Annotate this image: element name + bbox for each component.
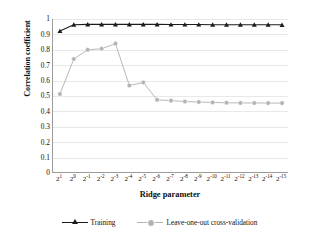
data-point-marker — [238, 101, 243, 106]
data-point-marker — [224, 100, 229, 105]
data-point-marker — [196, 100, 201, 105]
data-point-marker — [280, 101, 285, 106]
data-point-marker — [155, 98, 160, 103]
line-chart: Correlation coefficient 10.90.80.70.60.5… — [0, 0, 319, 237]
y-axis-tick-label: 0.4 — [26, 108, 50, 115]
legend-item: Leave-one-out cross-validation — [137, 218, 257, 227]
data-point-marker — [72, 57, 77, 62]
y-axis-tick-label: 0.2 — [26, 139, 50, 146]
data-point-marker — [169, 98, 174, 103]
y-axis-tick-label: 0.5 — [26, 92, 50, 99]
data-point-marker — [183, 99, 188, 104]
legend-item: Training — [62, 218, 116, 227]
data-point-marker — [141, 80, 146, 85]
circle-marker-icon — [137, 218, 163, 227]
y-axis-tick-label: 0.8 — [26, 46, 50, 53]
series-1 — [57, 22, 284, 33]
data-point-marker — [57, 29, 62, 33]
series-2 — [58, 41, 285, 105]
triangle-marker-icon — [62, 218, 88, 227]
series-line — [60, 44, 282, 103]
y-axis-tick-label: 0.7 — [26, 62, 50, 69]
series-layer — [53, 19, 289, 173]
data-point-marker — [113, 41, 118, 46]
x-axis-tick-labels: 21202-12-22-32-42-52-62-72-82-92-102-112… — [52, 175, 288, 191]
data-point-marker — [127, 83, 132, 88]
legend-label: Training — [91, 218, 116, 227]
x-axis-tick-label: 2-15 — [266, 175, 296, 184]
data-point-marker — [266, 101, 271, 106]
data-point-marker — [85, 48, 90, 53]
y-axis-tick-label: 0.1 — [26, 154, 50, 161]
x-axis-title: Ridge parameter — [52, 190, 288, 199]
data-point-marker — [58, 92, 63, 97]
data-point-marker — [252, 101, 257, 106]
y-axis-tick-label: 0.3 — [26, 123, 50, 130]
data-point-marker — [210, 100, 215, 105]
y-axis-tick-label: 0.9 — [26, 31, 50, 38]
y-axis-tick-label: 1 — [26, 15, 50, 22]
data-point-marker — [99, 46, 104, 51]
y-axis-tick-label: 0.6 — [26, 77, 50, 84]
legend-label: Leave-one-out cross-validation — [166, 218, 257, 227]
chart-legend: TrainingLeave-one-out cross-validation — [0, 214, 319, 230]
y-axis-tick-labels: 10.90.80.70.60.50.40.30.20.10 — [24, 0, 50, 237]
plot-area — [52, 19, 288, 173]
